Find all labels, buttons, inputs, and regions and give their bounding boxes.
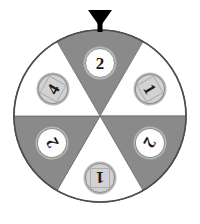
sector-label-0: 2 bbox=[96, 54, 105, 73]
spinner-wheel-figure: 2 1 2 1 2 4 bbox=[0, 0, 200, 224]
sector-token-3: 1 bbox=[84, 162, 117, 195]
sector-token-0: 2 bbox=[84, 47, 117, 80]
sector-label-3: 1 bbox=[96, 168, 105, 187]
